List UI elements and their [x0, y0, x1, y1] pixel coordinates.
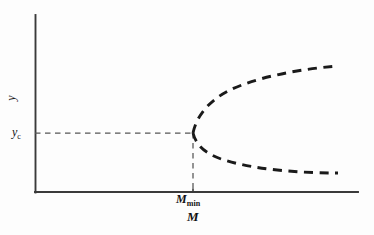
- m-min-subscript: min: [187, 199, 201, 208]
- upper-branch-curve: [193, 66, 338, 133]
- x-axis-label: M: [187, 210, 199, 223]
- lower-branch-curve: [193, 133, 338, 173]
- m-min-base: M: [176, 192, 187, 206]
- m-min-tick-label: Mmin: [176, 193, 200, 205]
- y-axis-label: y: [5, 95, 17, 100]
- bifurcation-figure: y yc Mmin M: [0, 0, 374, 235]
- y-critical-subscript: c: [17, 132, 21, 141]
- y-critical-tick-label: yc: [12, 126, 21, 138]
